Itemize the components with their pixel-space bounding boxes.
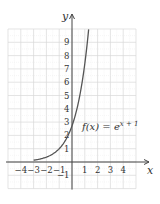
y-tick-label: 7 (64, 64, 69, 74)
function-label-main: f(x) = e (81, 121, 120, 132)
function-label-exponent: x + 1 (120, 120, 139, 128)
x-axis-label: x (147, 164, 154, 177)
x-tick-label: −3 (27, 165, 40, 175)
y-tick-label: 8 (64, 51, 69, 61)
x-tick-label: −2 (40, 165, 53, 175)
x-tick-label: 3 (108, 165, 113, 175)
x-tick-label: 1 (82, 165, 87, 175)
y-tick-label: 1 (64, 144, 69, 154)
y-axis-label: y (61, 10, 69, 23)
y-tick-label: 6 (64, 77, 69, 87)
y-tick-label: −1 (57, 170, 70, 180)
y-tick-label: 9 (64, 37, 69, 47)
y-tick-label: 4 (64, 104, 69, 114)
y-tick-label: 3 (64, 117, 69, 127)
function-label: f(x) = ex + 1 (81, 120, 139, 132)
exponential-function-graph: −4−3−2−11234−1123456789 x y f(x) = ex + … (0, 0, 160, 204)
x-tick-label: 2 (95, 165, 100, 175)
y-tick-label: 5 (64, 91, 69, 101)
x-tick-label: 4 (120, 165, 125, 175)
x-tick-label: −4 (15, 165, 28, 175)
